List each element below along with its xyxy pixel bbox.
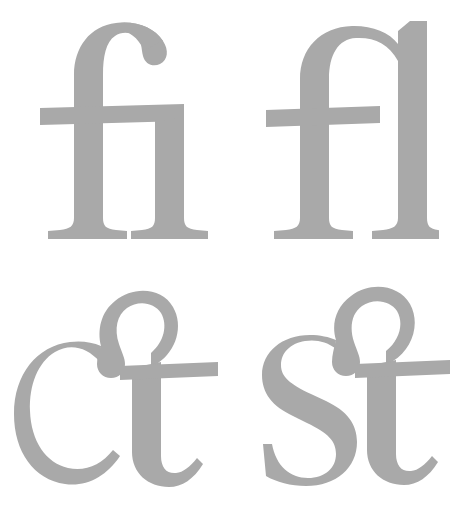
dotless-i-letterform-path (131, 118, 208, 239)
glyph-cell-fi (0, 0, 230, 258)
t-crossbar-path (120, 362, 218, 380)
fi-ligature-glyph (32, 17, 212, 247)
glyph-cell-fl (230, 0, 460, 258)
st-ligature-glyph (243, 284, 453, 499)
glyph-cell-st (230, 258, 460, 515)
glyph-cell-ct (0, 258, 230, 515)
f-crossbar-path (266, 106, 380, 127)
f-letterform-path (274, 26, 398, 239)
ct-ligature-glyph (12, 284, 222, 499)
t-letterform-path (367, 360, 438, 485)
t-letterform-path (132, 362, 203, 487)
f-letterform-path (48, 22, 167, 239)
t-crossbar-path (355, 360, 450, 378)
l-letterform-path (372, 21, 439, 239)
fl-ligature-glyph (260, 17, 440, 247)
ligature-specimen-sheet (0, 0, 460, 515)
